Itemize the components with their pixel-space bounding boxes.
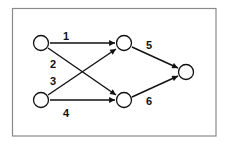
edge-label-6: 6	[146, 95, 152, 107]
edge-label-4: 4	[63, 107, 70, 119]
edge-6	[132, 76, 178, 97]
edge-label-3: 3	[50, 75, 56, 87]
node-input-top	[34, 36, 49, 51]
edge-label-2: 2	[50, 58, 56, 70]
network-diagram: 1 2 3 4 5 6	[0, 0, 226, 144]
node-input-bottom	[34, 93, 49, 108]
edge-label-1: 1	[63, 30, 69, 42]
node-middle-bottom	[117, 93, 132, 108]
edge-5	[132, 47, 178, 68]
node-middle-top	[117, 36, 132, 51]
edge-label-5: 5	[146, 39, 152, 51]
node-output	[179, 65, 194, 80]
